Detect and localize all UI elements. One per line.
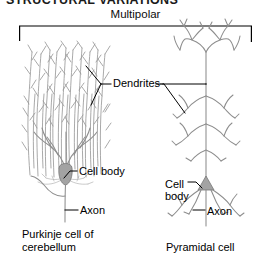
label-cell-body-purkinje: Cell body — [79, 165, 125, 177]
figure-artwork — [0, 0, 271, 263]
caption-purkinje-line1: Purkinje cell of — [22, 228, 94, 240]
label-cell-body-pyramidal-line1: Cell — [165, 178, 184, 190]
pyramidal-soma — [198, 176, 214, 190]
label-dendrites: Dendrites — [113, 77, 160, 89]
purkinje-soma — [59, 164, 72, 186]
label-axon-pyramidal: Axon — [207, 205, 232, 217]
pyramidal-apical-tuft — [174, 19, 240, 52]
label-cell-body-pyramidal-line2: body — [165, 190, 189, 202]
neuron-structural-variations-figure: STRUCTURAL VARIATIONS Multipolar — [0, 0, 271, 263]
label-axon-purkinje: Axon — [80, 204, 105, 216]
leader-dendrites-right — [156, 84, 206, 113]
caption-pyramidal-cell: Pyramidal cell — [166, 241, 234, 254]
purkinje-axon — [31, 176, 66, 222]
label-cell-body-pyramidal: Cellbody — [165, 178, 189, 202]
caption-purkinje-cell: Purkinje cell ofcerebellum — [22, 228, 94, 254]
caption-purkinje-line2: cerebellum — [22, 241, 76, 253]
purkinje-cell-drawing — [22, 41, 111, 222]
multipolar-bracket — [19, 26, 252, 42]
